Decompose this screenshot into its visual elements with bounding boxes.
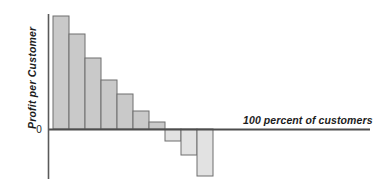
bar-7 [149, 122, 165, 129]
bar-8 [165, 129, 181, 141]
bar-3 [85, 58, 101, 129]
bar-6 [133, 111, 149, 129]
bar-2 [69, 34, 85, 129]
bar-9 [181, 129, 197, 155]
profit-per-customer-chart: Profit per Customer 0 100 percent of cus… [0, 0, 378, 186]
x-axis-annotation: 100 percent of customers [243, 114, 373, 126]
y-axis-label: Profit per Customer [26, 26, 38, 129]
bar-1 [53, 16, 69, 129]
bar-10 [197, 129, 213, 176]
bar-4 [101, 80, 117, 129]
y-axis-zero-label: 0 [36, 124, 42, 135]
chart-svg: Profit per Customer 0 100 percent of cus… [0, 0, 378, 186]
bar-5 [117, 94, 133, 129]
